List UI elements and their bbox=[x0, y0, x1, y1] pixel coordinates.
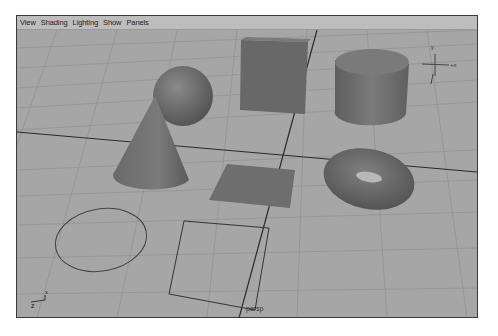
menu-lighting[interactable]: Lighting bbox=[73, 18, 98, 27]
gizmo-x-label: +x bbox=[450, 62, 457, 68]
menu-shading[interactable]: Shading bbox=[41, 18, 68, 27]
circle-curve bbox=[50, 201, 151, 278]
axis-x-label: x bbox=[45, 289, 48, 295]
view-axis-gizmo bbox=[422, 54, 449, 84]
torus-object bbox=[318, 140, 420, 218]
perspective-viewport[interactable]: View Shading Lighting Show Panels bbox=[16, 15, 478, 318]
cube-object bbox=[240, 40, 308, 114]
scene-canvas[interactable]: y +x z x bbox=[17, 30, 477, 318]
menu-show[interactable]: Show bbox=[103, 18, 121, 27]
plane-object bbox=[209, 164, 295, 208]
square-curve bbox=[169, 221, 269, 310]
camera-name-label: persp bbox=[246, 305, 264, 312]
menu-view[interactable]: View bbox=[20, 18, 36, 27]
viewport-menubar: View Shading Lighting Show Panels bbox=[17, 16, 477, 30]
gizmo-y-label: y bbox=[431, 44, 434, 50]
axis-z-label: z bbox=[31, 302, 35, 309]
menu-panels[interactable]: Panels bbox=[126, 18, 148, 27]
